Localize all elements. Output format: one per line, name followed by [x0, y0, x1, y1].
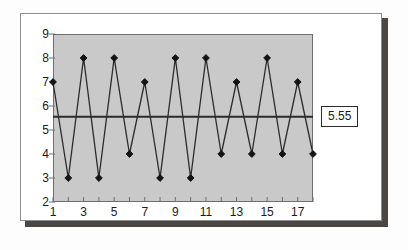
y-axis-tick-label: 6 [25, 100, 49, 112]
mean-value-callout: 5.55 [321, 106, 358, 127]
x-axis-labels: 1357911131517 [53, 206, 313, 222]
x-axis-tick-label: 3 [80, 206, 87, 218]
x-axis-tick-label: 13 [230, 206, 243, 218]
line-chart: 23456789 1357911131517 5.55 [21, 14, 383, 222]
y-axis-tick-label: 2 [25, 196, 49, 208]
x-axis-tick-label: 9 [172, 206, 179, 218]
x-axis-tick-label: 17 [291, 206, 304, 218]
x-axis-tick-label: 1 [50, 206, 57, 218]
x-axis-tick-label: 5 [111, 206, 118, 218]
data-series-line [53, 58, 313, 178]
x-axis-tick-label: 15 [260, 206, 273, 218]
y-axis-tick-marks [49, 34, 55, 202]
y-axis-labels: 23456789 [21, 34, 49, 202]
x-axis-tick-label: 7 [141, 206, 148, 218]
x-axis-tick-marks [53, 197, 313, 202]
y-axis-tick-label: 7 [25, 76, 49, 88]
chart-card: 23456789 1357911131517 5.55 [20, 13, 382, 221]
y-axis-tick-label: 5 [25, 124, 49, 136]
figure-root: 23456789 1357911131517 5.55 [0, 0, 408, 250]
y-axis-tick-label: 9 [25, 28, 49, 40]
y-axis-tick-label: 4 [25, 148, 49, 160]
y-axis-tick-label: 3 [25, 172, 49, 184]
plot-svg [53, 34, 313, 202]
x-axis-tick-label: 11 [200, 206, 212, 218]
y-axis-tick-label: 8 [25, 52, 49, 64]
